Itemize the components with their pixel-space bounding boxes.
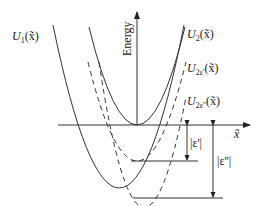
curve-u1 xyxy=(53,25,184,188)
curve-u2e2 xyxy=(99,62,186,206)
label-eps1: |ε'| xyxy=(190,136,202,150)
label-u2e2: U2ε''(x̃) xyxy=(187,94,220,110)
label-u2: U2(x̃) xyxy=(187,27,214,43)
label-eps2: |ε''| xyxy=(217,154,231,168)
energy-diagram: Energy x̃ U1(x̃) U2(x̃) U2ε'(x̃) U2ε''(x… xyxy=(0,0,265,206)
label-u2e1: U2ε'(x̃) xyxy=(187,61,218,77)
label-u1: U1(x̃) xyxy=(12,29,39,45)
x-axis-label: x̃ xyxy=(233,127,240,141)
energy-axis-label: Energy xyxy=(120,22,134,56)
